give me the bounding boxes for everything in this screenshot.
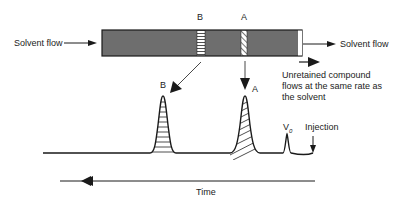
band-unretained bbox=[298, 31, 302, 56]
band-a bbox=[241, 31, 247, 56]
peak-a-label: A bbox=[252, 84, 258, 95]
solvent-flow-out-arrow bbox=[303, 41, 336, 47]
chromatography-diagram bbox=[0, 0, 412, 209]
injection-label: Injection bbox=[305, 122, 339, 133]
band-b-label: B bbox=[197, 12, 203, 23]
chromatogram bbox=[43, 96, 313, 160]
injection-arrow bbox=[310, 136, 316, 153]
time-arrow bbox=[60, 176, 315, 186]
unretained-label-line3: the solvent bbox=[282, 92, 326, 103]
arrow-a bbox=[240, 61, 250, 90]
unretained-label-line2: flows at the same rate as bbox=[282, 81, 382, 92]
time-label: Time bbox=[196, 187, 216, 198]
unretained-arrow bbox=[299, 57, 320, 67]
column bbox=[102, 30, 302, 56]
peak-b-label: B bbox=[160, 80, 166, 91]
v0-label: V0 bbox=[283, 122, 292, 137]
solvent-flow-in-arrow bbox=[64, 40, 97, 46]
arrow-b bbox=[170, 62, 201, 93]
band-b bbox=[197, 31, 205, 56]
band-a-label: A bbox=[241, 12, 247, 23]
solvent-flow-out-label: Solvent flow bbox=[340, 39, 389, 50]
unretained-label-line1: Unretained compound bbox=[282, 70, 371, 81]
v0-label-sub: 0 bbox=[289, 128, 292, 134]
solvent-flow-in-label: Solvent flow bbox=[14, 38, 63, 49]
